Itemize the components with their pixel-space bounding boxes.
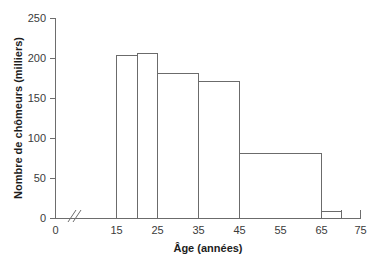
y-axis-title: Nombre de chômeurs (milliers) xyxy=(12,37,24,199)
chart-canvas: 250 200 150 100 50 0 0 15 2 xyxy=(0,0,376,263)
x-tick-label: 65 xyxy=(315,224,327,236)
bar-45-65 xyxy=(240,153,322,218)
bar-15-20 xyxy=(117,55,138,218)
bar-25-35 xyxy=(158,74,199,219)
y-tick-label: 50 xyxy=(34,172,46,184)
y-axis-tick-labels: 250 200 150 100 50 0 xyxy=(28,12,46,224)
x-tick-label: 25 xyxy=(151,224,163,236)
bar-35-45 xyxy=(199,81,240,218)
x-tick-label: 35 xyxy=(192,224,204,236)
x-axis-title: Âge (années) xyxy=(173,242,242,254)
y-tick-label: 100 xyxy=(28,132,46,144)
x-tick-label: 75 xyxy=(354,224,366,236)
x-axis-tick-labels: 0 15 25 35 45 55 65 75 xyxy=(52,224,366,236)
axis-break-icon xyxy=(68,210,81,222)
y-tick-label: 150 xyxy=(28,92,46,104)
bar-65-70 xyxy=(322,211,342,218)
histogram-chart: 250 200 150 100 50 0 0 15 2 xyxy=(0,0,376,263)
x-tick-label: 45 xyxy=(233,224,245,236)
bar-20-25 xyxy=(138,54,158,219)
histogram-bars xyxy=(117,54,342,219)
x-tick-label: 15 xyxy=(110,224,122,236)
x-tick-label: 55 xyxy=(274,224,286,236)
y-tick-label: 0 xyxy=(40,212,46,224)
y-tick-label: 250 xyxy=(28,12,46,24)
y-tick-label: 200 xyxy=(28,52,46,64)
x-tick-label: 0 xyxy=(52,224,58,236)
y-axis-ticks xyxy=(50,19,56,219)
